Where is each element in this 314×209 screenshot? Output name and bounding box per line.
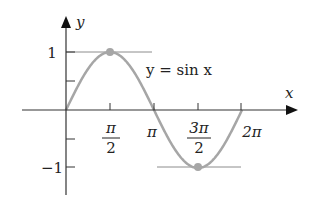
sine-chart: y x y = sin x 1 −1 π 2 π 3π 2 2π [0, 0, 314, 209]
x-label-3pi-over-2-num: 3π [189, 119, 210, 137]
x-label-pi-over-2-num: π [105, 119, 117, 137]
x-label-2pi: 2π [241, 123, 263, 141]
x-label-3pi-over-2-den: 2 [194, 139, 204, 157]
y-label-1: 1 [47, 44, 57, 62]
x-label-pi: π [146, 123, 158, 141]
min-point [194, 163, 202, 171]
y-label-neg-1: −1 [41, 159, 63, 177]
function-label: y = sin x [145, 61, 213, 79]
x-axis-arrow-icon [286, 105, 298, 115]
x-label-pi-over-2-den: 2 [106, 139, 116, 157]
y-axis-arrow-icon [61, 16, 71, 28]
max-point [106, 48, 114, 56]
x-axis-label: x [285, 84, 294, 102]
y-axis-label: y [75, 13, 85, 31]
